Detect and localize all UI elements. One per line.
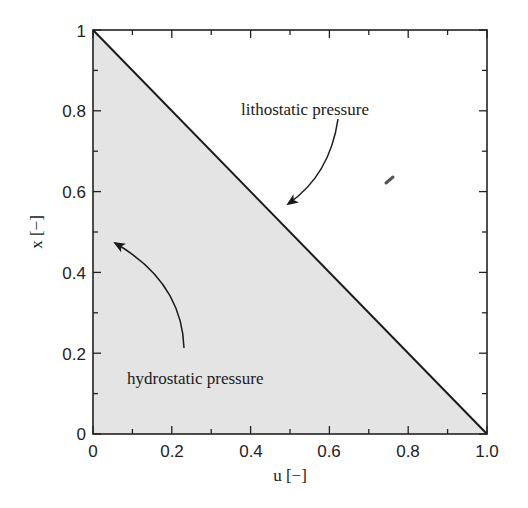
svg-text:0.8: 0.8 bbox=[62, 102, 86, 121]
svg-text:0.8: 0.8 bbox=[396, 442, 420, 461]
lithostatic-label: lithostatic pressure bbox=[241, 100, 369, 119]
y-tick-labels: 0 0.2 0.4 0.6 0.8 1 bbox=[62, 22, 86, 444]
lithostatic-arrow bbox=[288, 119, 338, 204]
x-tick-labels: 0 0.2 0.4 0.6 0.8 1.0 bbox=[88, 442, 499, 461]
svg-text:0.6: 0.6 bbox=[62, 183, 86, 202]
stray-mark bbox=[386, 177, 393, 183]
svg-text:0.4: 0.4 bbox=[62, 264, 86, 283]
x-axis-label: u [−] bbox=[273, 466, 307, 485]
svg-text:0.6: 0.6 bbox=[317, 442, 341, 461]
svg-text:0.4: 0.4 bbox=[239, 442, 263, 461]
chart: 0 0.2 0.4 0.6 0.8 1.0 0 0.2 0.4 0.6 0.8 … bbox=[0, 0, 528, 508]
svg-text:0: 0 bbox=[88, 442, 97, 461]
svg-text:1: 1 bbox=[77, 22, 86, 41]
svg-text:0.2: 0.2 bbox=[160, 442, 184, 461]
hydrostatic-label: hydrostatic pressure bbox=[127, 369, 263, 388]
svg-text:1.0: 1.0 bbox=[475, 442, 499, 461]
svg-text:0: 0 bbox=[77, 425, 86, 444]
y-axis-label: x [−] bbox=[27, 215, 46, 249]
svg-text:0.2: 0.2 bbox=[62, 345, 86, 364]
